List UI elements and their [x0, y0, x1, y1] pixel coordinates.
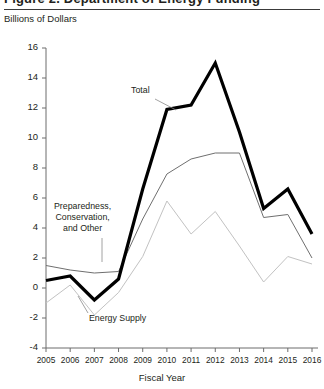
leader-total [155, 99, 176, 110]
annotation-preparedness-line3: and Other [54, 223, 111, 234]
figure-container: Figure 2. Department of Energy Funding B… [0, 0, 324, 389]
y-tick-10: 10 [12, 131, 38, 142]
annotation-preparedness-line1: Preparedness, [54, 201, 111, 212]
series-group [46, 63, 312, 315]
y-tick-6: 6 [12, 191, 38, 202]
y-tick-8: 8 [12, 161, 38, 172]
y-tick-0: 0 [12, 281, 38, 292]
x-tick-2016: 2016 [297, 355, 324, 365]
y-tick-12: 12 [12, 101, 38, 112]
annotation-preparedness: Preparedness, Conservation, and Other [54, 201, 111, 234]
annotation-total: Total [131, 85, 150, 96]
y-tick-14: 14 [12, 71, 38, 82]
y-tick-2: 2 [12, 251, 38, 262]
annotation-preparedness-line2: Conservation, [54, 212, 111, 223]
y-tick-4: 4 [12, 221, 38, 232]
y-tick-16: 16 [12, 41, 38, 52]
y-tick--4: -4 [12, 341, 38, 352]
annotation-energy-supply: Energy Supply [89, 313, 146, 324]
x-axis-title: Fiscal Year [0, 372, 324, 383]
chart-plot-area [0, 0, 324, 389]
series-line-0 [46, 63, 312, 300]
y-tick--2: -2 [12, 311, 38, 322]
